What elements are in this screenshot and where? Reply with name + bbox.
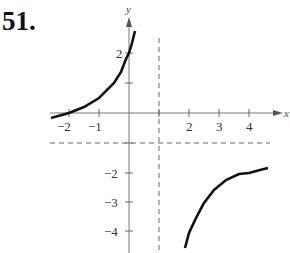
graph: x y −2 −1 2 3 4 2 −2 −3 −4 <box>0 0 290 253</box>
x-tick-label: −1 <box>88 119 102 134</box>
x-tick-label: 2 <box>186 119 193 134</box>
left-branch-curve <box>51 31 135 118</box>
x-axis-label: x <box>283 107 289 119</box>
x-tick-label: 3 <box>216 119 223 134</box>
right-branch-curve <box>185 168 268 248</box>
x-tick-label: 4 <box>246 119 253 134</box>
y-tick-label: 2 <box>116 46 123 61</box>
y-axis-arrow-icon <box>126 17 132 27</box>
x-axis-arrow-icon <box>273 110 283 116</box>
y-axis-label: y <box>125 3 131 15</box>
y-tick-label: −3 <box>104 195 118 210</box>
y-tick-label: −4 <box>104 224 118 239</box>
x-tick-label: −2 <box>57 119 71 134</box>
y-tick-label: −2 <box>104 166 118 181</box>
